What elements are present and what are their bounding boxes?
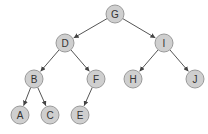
edge-G-D: [74, 19, 108, 38]
node-A: A: [11, 106, 29, 124]
node-H: H: [124, 70, 142, 88]
edge-D-B: [41, 50, 60, 72]
node-label: G: [111, 9, 119, 20]
edge-D-F: [71, 50, 90, 72]
edge-G-I: [123, 19, 156, 38]
edges: [24, 19, 189, 106]
node-label: D: [61, 38, 68, 49]
node-F: F: [87, 70, 105, 88]
edge-I-H: [140, 50, 159, 72]
node-J: J: [186, 70, 204, 88]
edge-I-J: [170, 50, 189, 72]
tree-diagram: GDIBFHJACE: [0, 0, 208, 134]
node-label: F: [93, 74, 99, 85]
nodes: GDIBFHJACE: [11, 5, 204, 124]
node-label: C: [46, 110, 53, 121]
node-label: B: [31, 74, 38, 85]
edge-F-E: [84, 87, 92, 106]
node-label: H: [129, 74, 136, 85]
node-I: I: [155, 34, 173, 52]
node-label: I: [163, 38, 166, 49]
edge-B-C: [38, 87, 46, 106]
node-G: G: [106, 5, 124, 23]
node-E: E: [71, 106, 89, 124]
node-D: D: [56, 34, 74, 52]
node-label: A: [17, 110, 24, 121]
node-label: J: [193, 74, 198, 85]
node-label: E: [77, 110, 84, 121]
edge-B-A: [24, 87, 31, 105]
node-C: C: [41, 106, 59, 124]
node-B: B: [25, 70, 43, 88]
